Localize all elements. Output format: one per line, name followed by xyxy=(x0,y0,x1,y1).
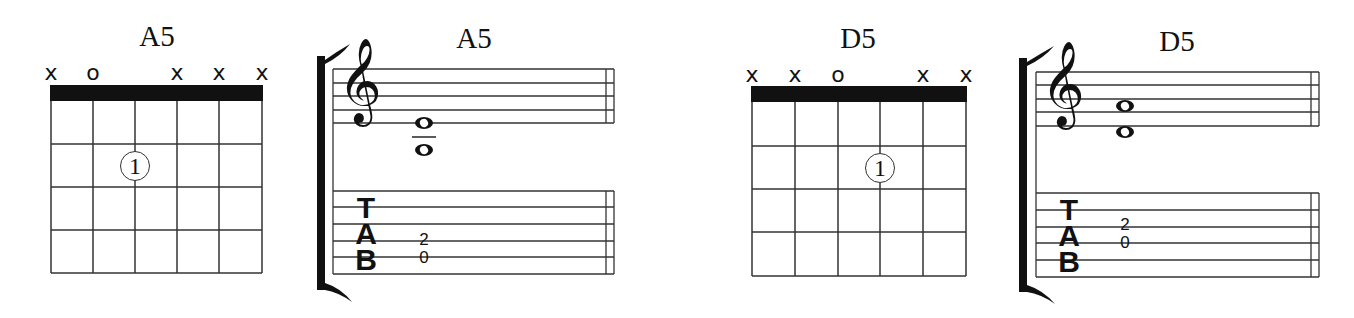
d5-tab-letter-b: B xyxy=(1058,247,1080,277)
d5-treble-clef-icon: 𝄞 xyxy=(1041,45,1085,119)
d5-tab-fret-d-string: 0 xyxy=(1120,234,1129,251)
d5-whole-notes xyxy=(1116,100,1134,138)
d5-tab-fret-g-string: 2 xyxy=(1120,216,1129,233)
d5-staff-and-tab-lines xyxy=(0,0,1354,318)
